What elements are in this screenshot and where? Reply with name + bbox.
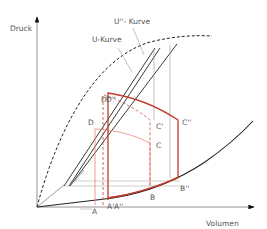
point-d2-label: D'' bbox=[106, 95, 116, 104]
red-dashed-top bbox=[104, 95, 150, 186]
point-c2-label: C'' bbox=[182, 118, 191, 127]
point-a-label: A bbox=[92, 207, 98, 216]
u-curve-line bbox=[64, 48, 155, 186]
x-axis-label: Volumen bbox=[206, 219, 239, 228]
y-axis-label: Druck bbox=[10, 24, 33, 33]
origin-ray bbox=[37, 185, 64, 207]
point-c1-label: C' bbox=[156, 122, 163, 131]
u2-curve-line bbox=[70, 44, 177, 186]
red-solid-cycle bbox=[108, 93, 178, 200]
u-curve-leader bbox=[118, 48, 132, 72]
pressure-volume-diagram: Druck Volumen U-Kurve U''- Kurve D D' D'… bbox=[0, 0, 267, 229]
lower-solid-curve bbox=[37, 121, 253, 207]
point-c-label: C bbox=[156, 141, 161, 150]
point-d-label: D bbox=[88, 118, 94, 127]
point-b2-label: B'' bbox=[180, 184, 189, 193]
point-a2-label: A'' bbox=[114, 202, 123, 211]
u-curve-label: U-Kurve bbox=[92, 35, 122, 44]
u2-curve-leader bbox=[133, 28, 144, 55]
u2-curve-label: U''- Kurve bbox=[114, 17, 151, 26]
point-b-label: B bbox=[150, 193, 155, 202]
